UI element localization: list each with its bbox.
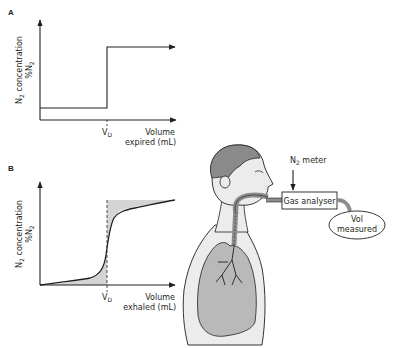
svg-text:N2 concentration: N2 concentration (15, 200, 25, 268)
panel-a-x-label-line2: expired (mL) (125, 138, 176, 147)
panel-b-x-label-line1: Volume (145, 293, 175, 302)
panel-a-chart: A N2 concentration %N2 VD Volume expired… (8, 8, 176, 147)
panel-b-chart: B N2 concentration %N2 VD Volume exhaled… (8, 164, 176, 312)
panel-b-vd-label: VD (102, 293, 112, 303)
svg-text:%N2: %N2 (25, 225, 35, 243)
panel-a-x-label-line1: Volume (145, 128, 175, 137)
gas-analyser-label: Gas analyser (283, 197, 336, 206)
svg-text:%N2: %N2 (25, 61, 35, 79)
panel-b-y-label: N2 concentration %N2 (15, 200, 35, 268)
svg-text:N2 concentration: N2 concentration (15, 36, 25, 104)
panel-a-vd-label: VD (102, 128, 112, 138)
n2-meter-label: N2 meter (290, 156, 327, 166)
panel-b-x-label-line2: exhaled (mL) (123, 303, 176, 312)
panel-b-label: B (8, 164, 14, 173)
panel-a-label: A (8, 8, 14, 17)
apparatus: N2 meter Gas analyser Vol measured (266, 156, 385, 239)
panel-a-y-label: N2 concentration %N2 (15, 36, 35, 104)
panel-a-step-curve (40, 47, 172, 108)
figure-canvas: A N2 concentration %N2 VD Volume expired… (0, 0, 393, 348)
vol-label-line1: Vol (351, 215, 363, 224)
volume-tube-icon (337, 200, 350, 211)
ear-icon (220, 176, 230, 188)
vol-label-line2: measured (337, 225, 377, 234)
person-illustration (183, 145, 273, 345)
